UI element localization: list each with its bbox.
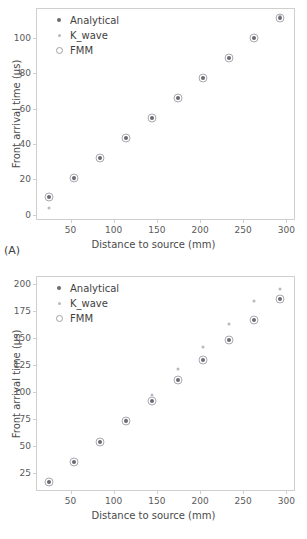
y-tick-label: 40 — [20, 139, 31, 149]
y-tick-label: 60 — [20, 104, 31, 114]
x-tick-label: 150 — [148, 496, 165, 506]
x-tick — [71, 491, 72, 494]
plot-area-a: Analytical K_wave FMM Distance to source… — [0, 0, 307, 268]
y-tick-label: 20 — [20, 174, 31, 184]
y-tick-label: 0 — [25, 210, 31, 220]
kwave-marker-icon — [48, 302, 70, 305]
data-point-analytical — [47, 480, 51, 484]
x-tick-label: 150 — [148, 225, 165, 235]
y-tick-label: 175 — [14, 306, 31, 316]
legend-item-kwave: K_wave — [48, 297, 119, 309]
x-tick — [200, 491, 201, 494]
legend-label-kwave: K_wave — [70, 30, 108, 41]
plot-area-b: Analytical K_wave FMM Distance to source… — [0, 268, 307, 539]
data-point-analytical — [124, 136, 128, 140]
legend-item-analytical: Analytical — [48, 14, 119, 26]
y-tick-label: 80 — [20, 68, 31, 78]
y-tick-label: 100 — [14, 33, 31, 43]
x-tick — [286, 220, 287, 223]
legend-a: Analytical K_wave FMM — [48, 14, 119, 56]
data-point-k_wave — [279, 287, 282, 290]
legend-item-fmm: FMM — [48, 312, 119, 324]
x-tick — [243, 220, 244, 223]
x-tick-label: 250 — [235, 496, 252, 506]
x-tick-label: 100 — [105, 496, 122, 506]
data-point-analytical — [176, 378, 180, 382]
data-point-analytical — [227, 56, 231, 60]
y-tick-label: 75 — [20, 414, 31, 424]
legend-item-kwave: K_wave — [48, 29, 119, 41]
data-point-analytical — [150, 399, 154, 403]
legend-item-fmm: FMM — [48, 44, 119, 56]
y-tick — [33, 284, 36, 285]
data-point-analytical — [124, 419, 128, 423]
panel-b: Analytical K_wave FMM Distance to source… — [0, 268, 307, 539]
x-tick — [200, 220, 201, 223]
y-tick — [33, 144, 36, 145]
fmm-marker-icon — [48, 315, 70, 322]
y-tick-label: 25 — [20, 468, 31, 478]
x-tick — [114, 491, 115, 494]
data-point-analytical — [98, 156, 102, 160]
y-tick — [33, 338, 36, 339]
x-tick-label: 300 — [278, 496, 295, 506]
y-tick — [33, 446, 36, 447]
data-point-k_wave — [253, 300, 256, 303]
data-point-k_wave — [47, 206, 50, 209]
x-tick-label: 200 — [191, 225, 208, 235]
data-point-k_wave — [227, 323, 230, 326]
data-point-analytical — [176, 96, 180, 100]
y-tick — [33, 73, 36, 74]
x-tick-label: 100 — [105, 225, 122, 235]
data-point-k_wave — [202, 346, 205, 349]
y-tick — [33, 179, 36, 180]
x-tick-label: 250 — [235, 225, 252, 235]
y-tick — [33, 215, 36, 216]
legend-b: Analytical K_wave FMM — [48, 282, 119, 324]
panel-a: Analytical K_wave FMM Distance to source… — [0, 0, 307, 268]
data-point-k_wave — [176, 368, 179, 371]
x-tick — [243, 491, 244, 494]
x-tick-label: 50 — [65, 225, 76, 235]
y-tick — [33, 392, 36, 393]
y-tick — [33, 419, 36, 420]
y-tick-label: 200 — [14, 279, 31, 289]
y-tick — [33, 473, 36, 474]
x-tick — [157, 220, 158, 223]
data-point-analytical — [201, 76, 205, 80]
y-tick — [33, 311, 36, 312]
analytical-marker-icon — [48, 286, 70, 290]
legend-label-fmm: FMM — [70, 45, 93, 56]
data-point-analytical — [227, 338, 231, 342]
data-point-analytical — [201, 358, 205, 362]
x-tick — [71, 220, 72, 223]
y-tick-label: 150 — [14, 333, 31, 343]
legend-label-analytical: Analytical — [70, 283, 119, 294]
data-point-analytical — [72, 460, 76, 464]
x-axis-title-b: Distance to source (mm) — [0, 510, 307, 521]
x-axis-title-a: Distance to source (mm) — [0, 239, 307, 250]
figure-scatter-front-arrival-time: Analytical K_wave FMM Distance to source… — [0, 0, 307, 539]
data-point-analytical — [98, 440, 102, 444]
data-point-k_wave — [150, 394, 153, 397]
y-tick-label: 50 — [20, 441, 31, 451]
data-point-analytical — [72, 176, 76, 180]
x-tick-label: 50 — [65, 496, 76, 506]
kwave-marker-icon — [48, 34, 70, 37]
legend-label-analytical: Analytical — [70, 15, 119, 26]
data-point-analytical — [278, 297, 282, 301]
fmm-marker-icon — [48, 47, 70, 54]
y-tick-label: 125 — [14, 360, 31, 370]
data-point-analytical — [47, 195, 51, 199]
data-point-analytical — [252, 318, 256, 322]
y-tick — [33, 109, 36, 110]
x-tick — [114, 220, 115, 223]
y-tick — [33, 38, 36, 39]
y-tick-label: 100 — [14, 387, 31, 397]
x-tick-label: 200 — [191, 496, 208, 506]
x-tick — [286, 491, 287, 494]
legend-label-kwave: K_wave — [70, 298, 108, 309]
data-point-analytical — [252, 36, 256, 40]
x-tick — [157, 491, 158, 494]
x-tick-label: 300 — [278, 225, 295, 235]
